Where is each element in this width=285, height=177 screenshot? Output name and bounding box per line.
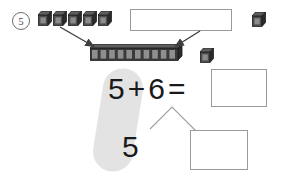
- worksheet-canvas: 5: [0, 0, 285, 177]
- unit-cube-icon: [98, 11, 112, 26]
- equals-operator: =: [166, 72, 189, 105]
- unit-cube-icon: [38, 11, 52, 26]
- unit-cube-icon: [68, 11, 82, 26]
- unit-cube-icon: [252, 12, 266, 27]
- problem-number-badge: 5: [12, 12, 30, 30]
- unit-cube-icon: [200, 48, 214, 63]
- sum-answer-box[interactable]: [211, 69, 267, 107]
- decomposition-part-right-box[interactable]: [190, 130, 248, 170]
- decomposition-part-left: 5: [122, 130, 139, 164]
- plus-operator: +: [126, 72, 149, 105]
- unit-cube-icon: [83, 11, 97, 26]
- arrow-left-to-stick: [60, 27, 93, 46]
- addend-2: 6: [148, 72, 166, 105]
- ten-stick-icon: [90, 44, 183, 61]
- top-answer-box[interactable]: [130, 9, 232, 31]
- addend-1: 5: [108, 72, 126, 105]
- equation-row: 5+6=: [108, 72, 188, 106]
- number-bond-branch: [150, 107, 196, 131]
- unit-cube-icon: [53, 11, 67, 26]
